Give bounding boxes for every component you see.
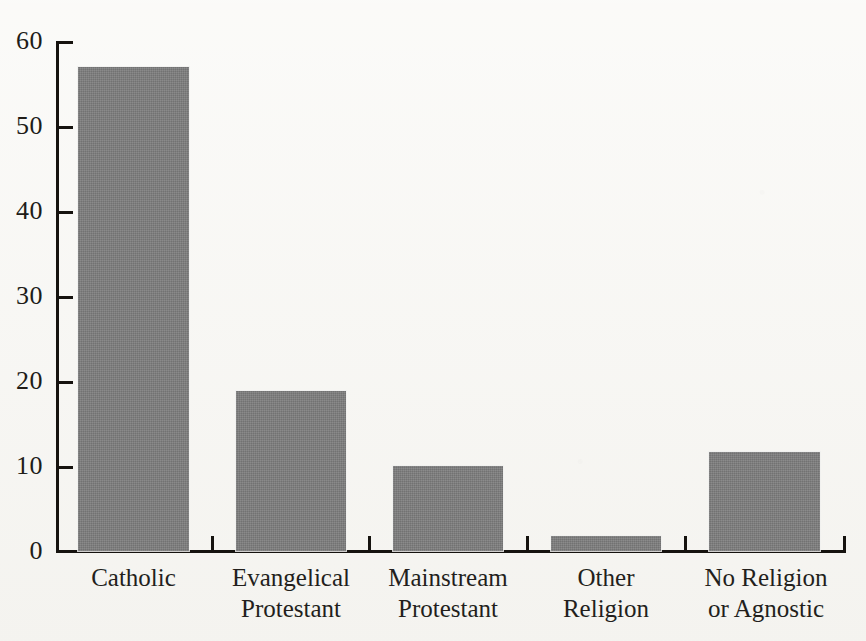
x-tick-3	[526, 536, 529, 551]
x-tick-4	[684, 536, 687, 551]
category-label-catholic: Catholic	[78, 562, 189, 593]
y-tick-20	[59, 381, 73, 384]
category-label-mainstream-protestant: Mainstream Protestant	[378, 562, 518, 624]
category-label-other-religion: Other Religion	[536, 562, 676, 624]
y-tick-label-50: 50	[16, 111, 43, 141]
y-tick-label-20: 20	[16, 366, 43, 396]
x-axis-right-cap	[843, 536, 846, 553]
bar-chart-figure: 60 50 40 30 20 10 0 Catholic Evangelical…	[0, 0, 866, 641]
x-tick-1	[211, 536, 214, 551]
bar-no-religion-or-agnostic	[709, 452, 820, 551]
bar-evangelical-protestant	[236, 391, 346, 551]
y-tick-30	[59, 296, 73, 299]
category-label-evangelical-protestant: Evangelical Protestant	[221, 562, 361, 624]
bar-catholic	[78, 67, 189, 552]
y-tick-label-0: 0	[30, 536, 44, 566]
y-tick-40	[59, 211, 73, 214]
plot-area: 60 50 40 30 20 10 0 Catholic Evangelical…	[0, 0, 866, 641]
y-tick-label-30: 30	[16, 281, 43, 311]
y-tick-label-40: 40	[16, 196, 43, 226]
x-tick-2	[368, 536, 371, 551]
category-label-no-religion-or-agnostic: No Religion or Agnostic	[692, 562, 840, 624]
y-tick-10	[59, 466, 73, 469]
bar-other-religion	[551, 536, 661, 551]
y-tick-label-60: 60	[16, 26, 43, 56]
y-tick-60	[59, 41, 73, 44]
y-tick-50	[59, 126, 73, 129]
y-tick-label-10: 10	[16, 451, 43, 481]
bar-mainstream-protestant	[393, 466, 503, 551]
